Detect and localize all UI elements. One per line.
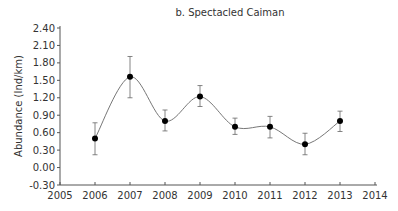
x-tick-label: 2014 <box>362 190 387 201</box>
data-point-marker <box>232 124 238 130</box>
y-tick-label: 0.30 <box>33 145 55 156</box>
y-tick-label: 1.50 <box>33 75 55 86</box>
data-point-marker <box>197 94 203 100</box>
data-point-marker <box>162 118 168 124</box>
chart: b. Spectacled Caiman Abundance (Ind/km) … <box>0 0 398 211</box>
x-tick-label: 2007 <box>117 190 142 201</box>
data-series <box>92 56 343 154</box>
series-line <box>95 77 340 145</box>
y-tick-label: 0.90 <box>33 110 55 121</box>
y-tick-label: 2.10 <box>33 40 55 51</box>
y-tick-label: 0.00 <box>33 162 55 173</box>
x-tick-label: 2005 <box>47 190 72 201</box>
data-point-marker <box>267 124 273 130</box>
y-tick-label: 2.40 <box>33 23 55 34</box>
axes: -0.300.000.300.600.901.201.501.802.102.4… <box>29 23 388 202</box>
data-point-marker <box>92 135 98 141</box>
y-tick-label: 1.20 <box>33 92 55 103</box>
y-tick-label: 1.80 <box>33 57 55 68</box>
chart-title: b. Spectacled Caiman <box>175 7 284 18</box>
y-tick-label: -0.30 <box>29 180 55 191</box>
x-tick-label: 2013 <box>327 190 352 201</box>
y-axis-label: Abundance (Ind/km) <box>13 55 24 157</box>
x-tick-label: 2012 <box>292 190 317 201</box>
y-tick-label: 0.60 <box>33 127 55 138</box>
data-point-marker <box>302 141 308 147</box>
x-tick-label: 2011 <box>257 190 282 201</box>
x-tick-label: 2006 <box>82 190 107 201</box>
data-point-marker <box>337 118 343 124</box>
x-tick-label: 2008 <box>152 190 177 201</box>
x-tick-label: 2009 <box>187 190 212 201</box>
x-tick-label: 2010 <box>222 190 247 201</box>
data-point-marker <box>127 74 133 80</box>
